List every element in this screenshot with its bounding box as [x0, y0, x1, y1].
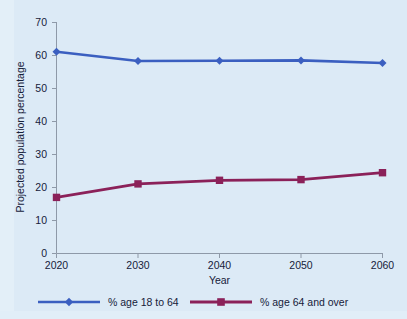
- data-point-2040-blue: [216, 57, 224, 65]
- chart-container: 70 60 50 40 30 20 10 0 2020 2030 2040 20…: [0, 0, 407, 319]
- y-tick-label-70: 70: [35, 16, 47, 28]
- data-point-2040-maroon: [216, 177, 223, 184]
- square-marker-icon: [217, 298, 225, 306]
- x-axis-ticks: [57, 254, 383, 259]
- diamond-marker-icon: [65, 298, 73, 306]
- series-age-18-to-64: [53, 48, 387, 67]
- legend-label-age-18-to-64: % age 18 to 64: [108, 296, 179, 308]
- data-point-2050-maroon: [297, 176, 304, 183]
- x-tick-label-2050: 2050: [289, 259, 313, 271]
- y-tick-label-60: 60: [35, 49, 47, 61]
- series-markers-maroon: [53, 169, 386, 201]
- y-axis-title: Projected population percentage: [14, 61, 26, 212]
- data-point-2030-blue: [134, 57, 142, 65]
- series-age-64-and-over: [53, 169, 386, 201]
- data-point-2060-blue: [379, 59, 387, 67]
- legend-item-age-64-and-over[interactable]: % age 64 and over: [190, 296, 349, 308]
- line-chart: 70 60 50 40 30 20 10 0 2020 2030 2040 20…: [0, 0, 407, 319]
- data-point-2050-blue: [297, 56, 305, 64]
- y-tick-label-10: 10: [35, 214, 47, 226]
- y-tick-label-20: 20: [35, 181, 47, 193]
- x-tick-label-2040: 2040: [208, 259, 232, 271]
- data-point-2030-maroon: [134, 180, 141, 187]
- data-point-2060-maroon: [379, 169, 386, 176]
- y-tick-label-0: 0: [41, 247, 47, 259]
- x-axis-title: Year: [209, 274, 231, 286]
- x-tick-label-2060: 2060: [371, 259, 395, 271]
- y-axis-ticks: [52, 23, 57, 254]
- chart-legend: % age 18 to 64 % age 64 and over: [38, 296, 349, 308]
- x-tick-label-2030: 2030: [126, 259, 150, 271]
- y-tick-label-40: 40: [35, 115, 47, 127]
- data-point-2020-blue: [53, 48, 61, 56]
- y-tick-label-30: 30: [35, 148, 47, 160]
- legend-item-age-18-to-64[interactable]: % age 18 to 64: [38, 296, 179, 308]
- y-tick-label-50: 50: [35, 82, 47, 94]
- legend-label-age-64-and-over: % age 64 and over: [260, 296, 349, 308]
- x-tick-label-2020: 2020: [45, 259, 69, 271]
- series-line-maroon: [57, 173, 383, 198]
- data-point-2020-maroon: [53, 194, 60, 201]
